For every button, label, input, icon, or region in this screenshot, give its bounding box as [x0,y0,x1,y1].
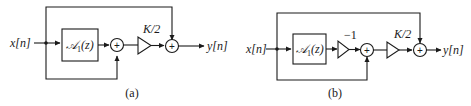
plus-icon-2-a: + [169,41,175,52]
gain-neg1-triangle-b [338,41,349,58]
plus-icon-1-a: + [114,40,120,51]
output-label-a: y[n] [206,39,228,53]
figure-canvas: x[n] 𝒜1(z) + K/2 + y[n] (a) x[n] [0,0,471,106]
output-label-b: y[n] [442,43,464,57]
caption-a: (a) [125,86,138,100]
diagram-b: x[n] 𝒜1(z) −1 + K/2 + y[n] (b) [245,13,464,100]
gain-k2-label-a: K/2 [142,22,160,36]
gain-k2-triangle-a [138,37,151,54]
gain-neg1-label-b: −1 [344,28,357,42]
plus-icon-1-b: + [364,45,370,56]
gain-k2-triangle-b [387,42,399,58]
diagram-a: x[n] 𝒜1(z) + K/2 + y[n] (a) [9,7,228,100]
caption-b: (b) [328,86,342,100]
plus-icon-2-b: + [417,45,423,56]
input-label-a: x[n] [9,36,31,50]
gain-k2-label-b: K/2 [393,27,411,41]
input-label-b: x[n] [245,42,267,56]
